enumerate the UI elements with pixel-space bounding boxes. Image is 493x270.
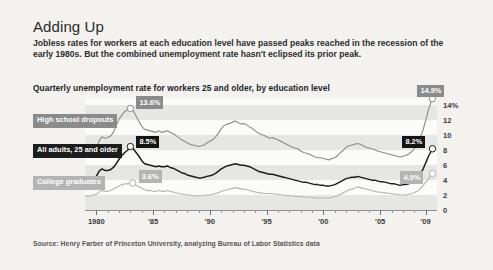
x-tick-label: '09 [421,217,431,226]
x-tick [335,210,336,213]
x-tick [164,210,165,213]
header-block: Adding Up Jobless rates for workers at e… [33,18,463,60]
data-point-marker [127,143,133,149]
x-tick-label: '00 [318,217,328,226]
y-tick-label: 0 [443,206,447,215]
callout-hs-peak: 13.6% [136,96,163,109]
x-tick [221,210,222,213]
x-tick-label: '95 [262,217,272,226]
chart-area: 1980'85'90'95'00'05'09 14%121086420 High… [33,98,465,228]
callout-hs-end: 14.9% [417,85,444,98]
series-line [85,173,432,198]
x-tick [244,210,245,213]
x-tick [323,210,324,215]
callout-all-end: 8.2% [402,136,425,149]
data-point-marker [129,180,135,186]
x-tick [233,210,234,213]
callout-college-end: 4.9% [400,171,423,184]
y-tick-label: 6 [443,161,447,170]
x-tick [267,210,268,215]
x-tick [358,210,359,213]
x-tick [199,210,200,213]
y-tick-label: 4 [443,176,447,185]
series-lines [85,98,437,210]
y-tick-label: 12 [443,116,451,125]
callout-college-peak: 3.6% [139,170,162,183]
infographic-chart: Adding Up Jobless rates for workers at e… [0,0,493,270]
x-tick [153,210,154,215]
x-tick [392,210,393,213]
x-tick [414,210,415,213]
x-tick-label: '90 [205,217,215,226]
x-tick [142,210,143,213]
y-tick-label: 14% [443,101,458,110]
x-tick [369,210,370,213]
deck-text: Jobless rates for workers at each educat… [33,38,457,60]
x-tick-label: 1980 [88,217,105,226]
legend-item-college-graduates: College graduates [33,176,105,190]
x-tick [255,210,256,213]
x-tick [312,210,313,213]
callout-all-peak: 8.5% [136,136,159,149]
x-tick [278,210,279,213]
x-tick [119,210,120,213]
data-point-marker [429,146,435,152]
legend-item-all-adults: All adults, 25 and older [33,144,122,158]
x-tick [346,210,347,213]
plot-region [85,98,437,210]
y-tick-label: 10 [443,131,451,140]
y-tick-label: 8 [443,146,447,155]
x-tick-label: '85 [148,217,158,226]
x-tick [96,210,97,215]
source-note: Source: Henry Farber of Princeton Univer… [33,240,320,247]
page-title: Adding Up [33,18,463,35]
x-tick [426,210,427,215]
legend-item-high-school-dropouts: High school dropouts [33,114,117,128]
series-line [85,147,432,187]
x-tick [108,210,109,213]
x-tick [403,210,404,213]
x-tick [210,210,211,215]
x-tick [187,210,188,213]
x-tick [289,210,290,213]
chart-subtitle: Quarterly unemployment rate for workers … [33,83,330,93]
data-point-marker [127,105,133,111]
data-point-marker [429,170,435,176]
x-tick [130,210,131,213]
y-tick-label: 2 [443,191,447,200]
x-tick [380,210,381,215]
x-axis-line [85,210,437,211]
x-tick [176,210,177,213]
x-tick-label: '05 [375,217,385,226]
x-tick [301,210,302,213]
